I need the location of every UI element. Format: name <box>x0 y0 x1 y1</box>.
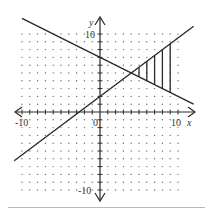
bottom-divider <box>8 207 205 208</box>
y-axis-label: y <box>88 17 94 28</box>
coordinate-graph: y 10 -10 -10 0 10 x <box>0 0 205 214</box>
y-min-label: -10 <box>78 185 91 196</box>
origin-label: 0 <box>93 117 98 128</box>
increasing-line <box>14 26 193 161</box>
x-max-label: 10 <box>171 117 181 128</box>
y-max-label: 10 <box>85 29 95 40</box>
x-axis-label: x <box>186 117 192 128</box>
x-min-label: -10 <box>15 117 28 128</box>
